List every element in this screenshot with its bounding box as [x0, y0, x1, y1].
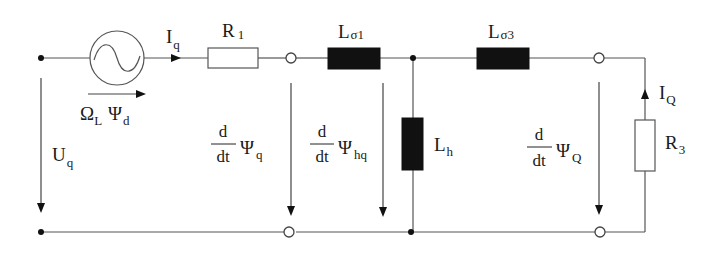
voltage-dpsiq-arrow-head-icon — [287, 206, 295, 216]
svg-text:ΨQ: ΨQ — [556, 140, 582, 165]
label-uq: Uq — [52, 144, 74, 170]
label-iq: Iq — [166, 26, 180, 52]
voltage-dpsiQ-arrow-head-icon — [595, 205, 603, 215]
label-dpsiq: d dt Ψq — [211, 122, 263, 166]
svg-text:d: d — [318, 122, 327, 141]
ac-source — [90, 31, 144, 85]
current-iQ-arrow-icon — [641, 89, 649, 99]
node-dot-top-left — [38, 55, 44, 61]
svg-text:Ψq: Ψq — [240, 137, 263, 162]
circuit-diagram: Iq R1 Lσ1 Lσ3 ΩLΨd Uq d dt Ψq d dt Ψhq L… — [0, 0, 719, 253]
label-dpsihq: d dt Ψhq — [310, 122, 368, 166]
resistor-r1 — [208, 48, 258, 68]
voltage-dpsihq-arrow-head-icon — [379, 207, 387, 217]
node-dot-top-lh — [410, 55, 416, 61]
label-iQ: IQ — [659, 82, 676, 107]
node-dot-bottom-lh — [408, 229, 414, 235]
label-lsigma3: Lσ3 — [488, 21, 514, 42]
current-iq-arrow-icon — [171, 54, 181, 62]
svg-text:d: d — [535, 125, 544, 144]
inductor-lh — [402, 118, 423, 170]
label-r1: R1 — [222, 20, 244, 42]
resistor-r3 — [635, 120, 655, 171]
voltage-uq-arrow-head-icon — [37, 203, 45, 213]
terminal-top-q — [286, 53, 296, 63]
terminal-bottom-q — [284, 227, 294, 237]
inductor-lsigma3 — [477, 48, 529, 69]
svg-text:dt: dt — [315, 147, 329, 166]
terminal-top-Q — [594, 53, 604, 63]
label-source-emf: ΩLΨd — [80, 103, 130, 128]
svg-text:Ψhq: Ψhq — [338, 137, 368, 162]
svg-text:d: d — [219, 122, 228, 141]
terminal-bottom-Q — [595, 227, 605, 237]
svg-text:dt: dt — [216, 147, 230, 166]
svg-text:dt: dt — [532, 151, 546, 170]
label-lsigma1: Lσ1 — [338, 21, 364, 42]
label-r3: R3 — [665, 132, 685, 157]
inductor-lsigma1 — [328, 48, 380, 69]
emf-arrow-head-icon — [136, 90, 146, 98]
node-dot-bottom-left — [38, 229, 44, 235]
label-dpsiQ: d dt ΨQ — [527, 125, 582, 170]
label-lh: Lh — [434, 134, 454, 159]
